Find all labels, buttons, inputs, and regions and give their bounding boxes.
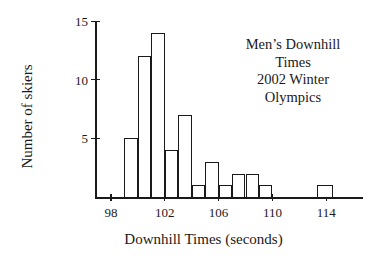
x-tick-label-106: 106 <box>209 206 229 219</box>
histogram-bar <box>259 185 272 197</box>
histogram-bar <box>232 174 245 197</box>
x-axis-title: Downhill Times (seconds) <box>0 231 373 248</box>
histogram-bar <box>192 185 205 197</box>
annotation-line: Men’s Downhill <box>222 36 364 54</box>
annotation-line: Times <box>222 54 364 72</box>
histogram-bar <box>151 33 164 197</box>
histogram-bar <box>124 138 137 197</box>
histogram-bar <box>165 150 178 197</box>
annotation-line: 2002 Winter <box>222 71 364 89</box>
histogram-bar <box>219 185 232 197</box>
x-tick-label-102: 102 <box>155 206 175 219</box>
x-axis-line <box>95 197 363 199</box>
x-tick-label-110: 110 <box>263 206 282 219</box>
histogram-bar <box>317 185 333 197</box>
histogram-bar <box>138 56 151 197</box>
histogram-figure: 51015 98102106110114 Number of skiers Do… <box>0 0 373 263</box>
histogram-bar <box>246 174 259 197</box>
x-tick-label-98: 98 <box>105 206 118 219</box>
x-tick-label-114: 114 <box>317 206 336 219</box>
annotation-line: Olympics <box>222 89 364 107</box>
y-axis-title: Number of skiers <box>19 32 36 202</box>
histogram-bar <box>178 115 191 197</box>
chart-annotation: Men’s DownhillTimes2002 WinterOlympics <box>222 36 364 106</box>
histogram-bar <box>205 162 218 197</box>
